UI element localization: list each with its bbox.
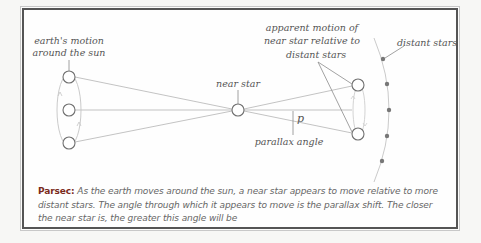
label-near-star: near star [216, 78, 261, 89]
label-apparent-1: apparent motion of [266, 22, 360, 33]
earth-position-top [63, 71, 75, 83]
apparent-star-bottom [352, 128, 364, 140]
sight-lines [75, 77, 352, 142]
earth-positions [63, 71, 75, 149]
figure-caption: Parsec: As the earth moves around the su… [38, 185, 443, 226]
earth-position-bottom [63, 137, 75, 149]
apparent-motion [351, 79, 367, 140]
label-distant-stars: distant stars [397, 37, 457, 48]
label-earth-motion-2: around the sun [33, 47, 106, 58]
label-apparent-2: near star relative to [264, 35, 360, 46]
label-parallax-angle: parallax angle [255, 136, 324, 147]
label-p: p [297, 112, 304, 125]
caption-text: As the earth moves around the sun, a nea… [38, 186, 438, 223]
near-star [232, 104, 244, 116]
label-apparent-3: distant stars [286, 49, 346, 60]
motion-arrow-icon [351, 96, 355, 99]
caption-term: Parsec: [38, 186, 75, 196]
distant-stars [374, 38, 391, 182]
apparent-star-top [352, 79, 364, 91]
label-earth-motion-1: earth's motion [34, 35, 104, 46]
earth-position-middle [63, 104, 75, 116]
